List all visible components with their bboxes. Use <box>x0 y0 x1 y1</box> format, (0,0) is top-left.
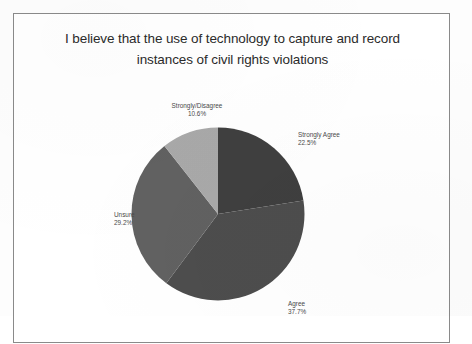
pie-chart: Strongly/Disagree 10.6% Strongly Agree 2… <box>14 14 451 344</box>
pie-slice-strongly-agree <box>218 128 303 214</box>
pie-label-unsure: Unsure 29.2% <box>114 211 164 228</box>
pie-label-strongly-disagree-percent: 10.6% <box>166 110 228 118</box>
chart-frame: I believe that the use of technology to … <box>13 13 450 343</box>
pie-label-unsure-name: Unsure <box>114 211 135 218</box>
pie-label-agree-percent: 37.7% <box>288 308 338 316</box>
pie-label-strongly-disagree-name: Strongly/Disagree <box>172 102 223 109</box>
pie-label-strongly-agree-name: Strongly Agree <box>298 131 340 138</box>
pie-label-strongly-disagree: Strongly/Disagree 10.6% <box>166 102 228 119</box>
pie-label-strongly-agree: Strongly Agree 22.5% <box>298 131 368 148</box>
pie-label-agree-name: Agree <box>288 300 305 307</box>
pie-label-agree: Agree 37.7% <box>288 300 338 317</box>
pie-label-strongly-agree-percent: 22.5% <box>298 139 368 147</box>
pie-label-unsure-percent: 29.2% <box>114 219 164 227</box>
